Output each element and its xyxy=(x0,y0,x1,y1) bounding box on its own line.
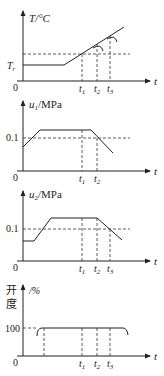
y-tick-label: 100 xyxy=(5,323,20,334)
origin-label: 0 xyxy=(13,172,18,183)
tick-t1: t1 xyxy=(79,263,85,276)
x-axis-label: t xyxy=(154,75,158,87)
panel-pressure-u2: u2/MPa 0.1 0 t t1 t2 t3 xyxy=(6,188,158,276)
tick-t3: t3 xyxy=(107,83,114,96)
temperature-curve xyxy=(23,27,124,65)
origin-label: 0 xyxy=(13,357,18,368)
tick-t2: t2 xyxy=(94,83,101,96)
tick-t1: t1 xyxy=(79,83,85,96)
diagram-canvas: T/°C Tr 0 t t1 t2 t3 u1/MPa 0.1 0 t t1 t… xyxy=(0,0,164,376)
angle-arc-icon xyxy=(107,37,117,42)
tick-t3: t3 xyxy=(107,358,114,371)
u2-curve xyxy=(23,218,122,241)
origin-label: 0 xyxy=(13,262,18,273)
u1-curve xyxy=(23,130,113,153)
y-tick-label: 0.1 xyxy=(6,223,19,234)
x-axis-label: t xyxy=(154,165,158,177)
y-axis-unit: /% xyxy=(28,285,40,296)
x-axis-label: t xyxy=(154,350,158,362)
tick-t1: t1 xyxy=(79,173,85,186)
tick-t2: t2 xyxy=(94,263,101,276)
tick-t1: t1 xyxy=(79,358,85,371)
tick-t3: t3 xyxy=(107,263,114,276)
tick-t2: t2 xyxy=(94,173,101,186)
y-axis-label-line2: 度 xyxy=(6,297,17,310)
panel-pressure-u1: u1/MPa 0.1 0 t t1 t2 xyxy=(6,98,158,186)
origin-label: 0 xyxy=(13,82,18,93)
panel-opening: 开 度 /% 100 0 t t1 t2 t3 xyxy=(5,284,158,371)
y-tick-label: Tr xyxy=(7,60,16,73)
opening-curve xyxy=(37,328,128,336)
y-axis-label: u1/MPa xyxy=(29,98,62,112)
y-tick-label: 0.1 xyxy=(6,132,19,143)
panel-temperature: T/°C Tr 0 t t1 t2 t3 xyxy=(7,11,158,96)
angle-arc-icon xyxy=(93,46,103,51)
y-axis-label: u2/MPa xyxy=(29,188,62,202)
x-axis-label: t xyxy=(154,255,158,267)
tick-t2: t2 xyxy=(94,358,101,371)
y-axis-label-line1: 开 xyxy=(6,284,17,296)
y-axis-label: T/°C xyxy=(29,12,51,24)
